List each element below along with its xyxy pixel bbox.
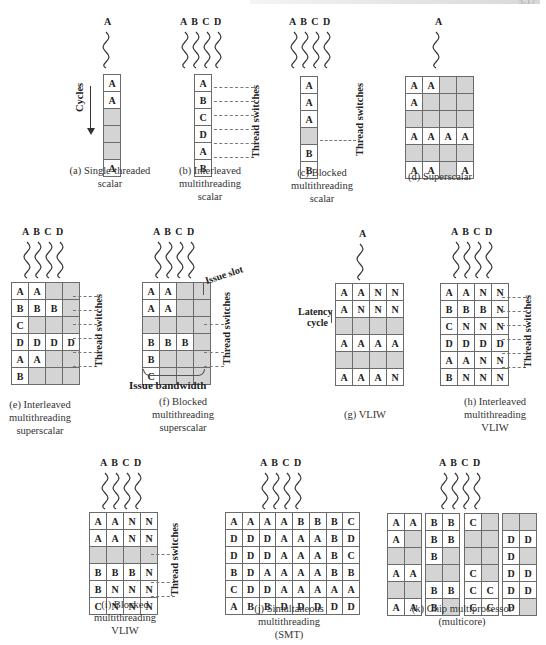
cycle-row: CC [465,582,499,599]
thread-switch-line [214,129,254,130]
cycles-arrowhead-icon [87,128,95,135]
issue-slot-filled: D [259,581,276,598]
thread-wave-icon [113,473,119,509]
thread-labels: A B C D [260,457,302,468]
issue-slot-empty [457,111,474,128]
issue-slot-empty [107,547,124,564]
issue-grid: AAAABBBCDDDAAABDDDDAAABCBDAAAABBCDDAAAAA… [225,512,360,615]
issue-slot-empty [141,547,158,564]
thread-switches-label: Thread switches [93,294,104,367]
issue-slot-filled: A [423,77,440,94]
issue-slot-filled: N [370,284,387,301]
issue-slot-filled: A [293,564,310,581]
issue-slot-empty [63,368,80,385]
issue-slot-filled: A [406,128,423,145]
cycle-row: AA [12,283,80,300]
issue-slot-empty [370,318,387,335]
issue-slot-filled: B [426,531,443,548]
caption-line: (j) Simultaneous [239,602,339,615]
issue-slot-filled: A [309,530,326,547]
core-grid-2: BBBBBBBB [425,513,460,616]
thread-labels: A B C D [180,16,222,27]
issue-slot-filled: A [353,284,370,301]
issue-slot-filled: B [426,582,443,599]
issue-slot-filled: B [443,514,460,531]
issue-slot-filled: D [195,126,212,143]
issue-slot-empty [104,126,121,143]
cycle-row: AA [388,565,422,582]
cycle-row [301,128,318,145]
issue-slot-filled: A [309,547,326,564]
issue-slot-filled: A [440,128,457,145]
issue-slot-filled: A [276,547,293,564]
issue-slot-filled: B [46,300,63,317]
thread-wave-icon [166,242,172,278]
thread-wave-icon [273,473,279,509]
issue-slot-empty [503,514,520,531]
issue-slot-filled: A [276,581,293,598]
thread-wave-icon [103,32,109,68]
issue-slot-filled: A [336,301,353,318]
issue-slot-filled: A [276,513,293,530]
thread-wave-icon [486,242,492,278]
issue-grid: AANNANNNAAAAAAAN [335,283,404,386]
issue-slot-filled: A [405,514,422,531]
issue-slot-filled: D [242,581,259,598]
issue-slot-empty [336,318,353,335]
issue-slot-filled: D [503,565,520,582]
issue-slot-filled: B [293,513,310,530]
panel-h-interleaved-vliw: A B C D AANNBBBNCNNNDDDDAANNBNNN Thread … [415,215,546,430]
issue-slot-empty [423,111,440,128]
issue-grid: AANNBBBNCNNNDDDDAANNBNNN [440,283,509,386]
issue-slot-empty [406,145,423,162]
issue-slot-empty [46,368,63,385]
thread-wave-icons [290,30,338,74]
issue-slot-empty [370,352,387,369]
cycle-row: AANN [441,352,509,369]
cycle-row: AANN [441,284,509,301]
cycle-row: CDDAAAAA [226,581,360,598]
issue-slot-filled: N [387,284,404,301]
issue-slot-filled: N [141,581,158,598]
issue-slot-filled: N [387,369,404,386]
caption-line: multithreading [272,179,372,192]
issue-slot-empty [177,351,194,368]
issue-slot-empty [440,77,457,94]
issue-slot-filled: A [423,128,440,145]
issue-slot-filled: D [503,531,520,548]
issue-slot-filled: B [326,530,343,547]
issue-slot-empty [29,368,46,385]
cycle-row [90,547,158,564]
thread-wave-icon [433,32,439,68]
core-grid-4: DDDDDDDD [502,513,537,616]
panel-g-vliw: A AANNANNNAAAAAAAN Latency cycle (g) VLI… [300,215,415,430]
issue-slot-empty [63,300,80,317]
panel-caption: (k) Chip multiprocessor(multicore) [402,602,522,628]
issue-slot-empty [482,565,499,582]
panel-caption: (g) VLIW [325,408,405,421]
issue-slot-filled: B [124,564,141,581]
issue-slot-filled: C [482,582,499,599]
cycle-row: C [465,514,499,531]
issue-slot-filled: B [441,369,458,386]
core-grid-1: AAAAAAA [387,513,422,616]
issue-slot-filled: D [441,335,458,352]
cycle-row: D [503,548,537,565]
cycle-row: B [12,368,80,385]
issue-slot-filled: A [457,128,474,145]
caption-line: multithreading [75,611,175,624]
cycle-row: DDDAAABD [226,530,360,547]
issue-slot-filled: B [426,514,443,531]
issue-slot-filled: N [387,301,404,318]
thread-wave-icon [474,473,480,509]
panel-k-chip-multiprocessor: A B C D AAAAAAA BBBBBBBB CCCCCC DDDDDDDD… [360,430,546,645]
caption-line: multithreading [160,177,260,190]
issue-bandwidth-brace-icon [143,369,205,376]
issue-slot-filled: C [195,109,212,126]
issue-slot-filled: A [12,351,29,368]
issue-slot-empty [440,94,457,111]
issue-slot-filled: A [343,581,360,598]
thread-labels: A B C D [153,226,195,237]
issue-slot-filled: A [336,335,353,352]
issue-slot-empty [405,531,422,548]
